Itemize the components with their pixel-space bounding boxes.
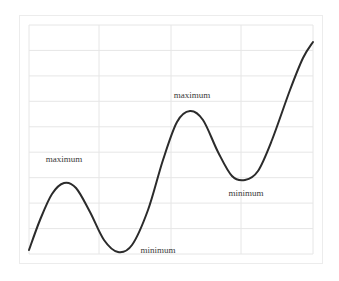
- annotation-maximum-1: maximum: [46, 154, 83, 164]
- annotation-minimum-2: minimum: [228, 188, 263, 198]
- gridlines: [29, 25, 313, 254]
- annotation-maximum-2: maximum: [174, 90, 211, 100]
- annotation-minimum-1: minimum: [140, 245, 175, 255]
- chart-plot: [0, 0, 339, 281]
